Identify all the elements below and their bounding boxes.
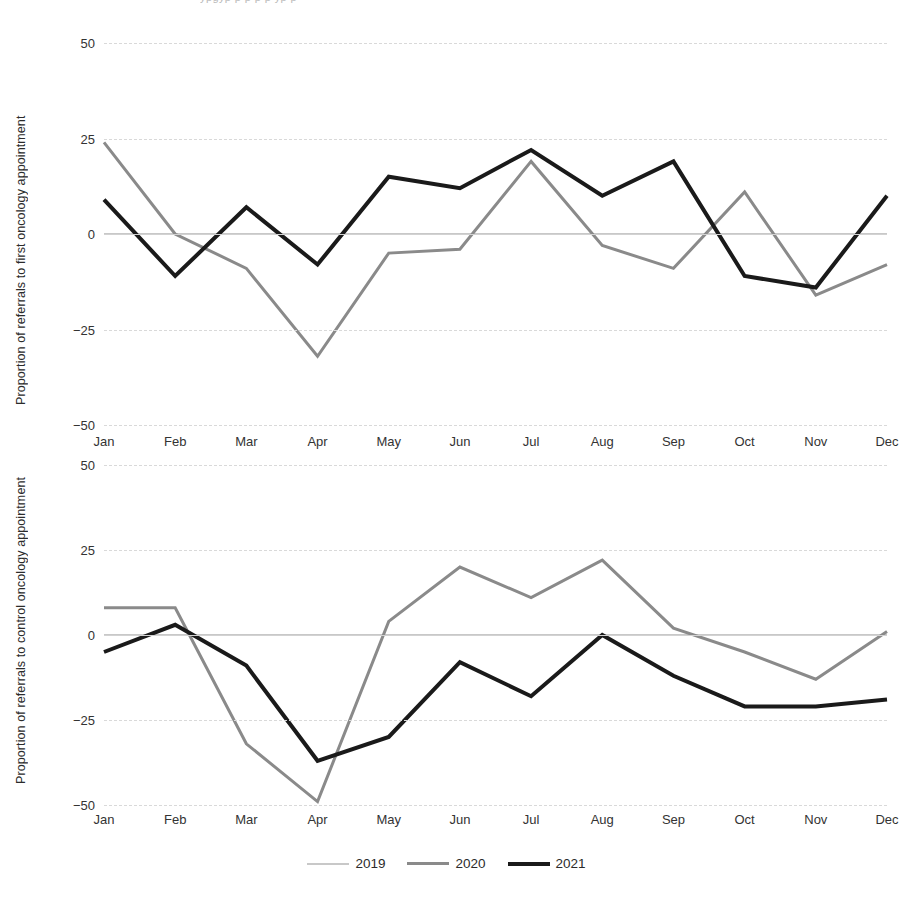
y-tick-label: 25	[81, 543, 95, 558]
x-tick-label-may: May	[376, 812, 401, 827]
gridline-50	[104, 465, 887, 466]
x-tick-label-jun: Jun	[449, 812, 470, 827]
x-tick-label-nov: Nov	[804, 434, 827, 449]
x-tick-label-feb: Feb	[164, 812, 186, 827]
gridline-25	[104, 139, 887, 140]
cropped-text-artifact: ypgyp p p p p yp p	[200, 0, 890, 5]
chart-panel-first-oncology: Proportion of referrals to first oncolog…	[0, 14, 893, 454]
chart-panel-control-oncology: Proportion of referrals to control oncol…	[0, 455, 893, 850]
y-axis-title-bottom: Proportion of referrals to control oncol…	[14, 465, 48, 795]
x-tick-label-sep: Sep	[662, 434, 685, 449]
gridline-25	[104, 550, 887, 551]
x-tick-label-dec: Dec	[875, 812, 898, 827]
x-tick-label-jan: Jan	[94, 434, 115, 449]
x-tick-label-jul: Jul	[523, 812, 540, 827]
gridline--50	[104, 425, 887, 426]
x-tick-label-nov: Nov	[804, 812, 827, 827]
x-axis-ticks-top: JanFebMarAprMayJunJulAugSepOctNovDec	[104, 434, 887, 454]
y-tick-label: 50	[81, 36, 95, 51]
x-tick-label-dec: Dec	[875, 434, 898, 449]
y-tick-label: −25	[73, 713, 95, 728]
x-tick-label-mar: Mar	[235, 812, 257, 827]
x-tick-label-sep: Sep	[662, 812, 685, 827]
legend-swatch-2021	[508, 862, 550, 866]
legend-item-2021[interactable]: 2021	[508, 856, 586, 871]
gridline--25	[104, 720, 887, 721]
x-tick-label-aug: Aug	[591, 434, 614, 449]
legend-item-2020[interactable]: 2020	[407, 856, 485, 871]
x-tick-label-apr: Apr	[307, 434, 327, 449]
x-tick-label-feb: Feb	[164, 434, 186, 449]
y-tick-label: 25	[81, 131, 95, 146]
plot-area-top: 50250−25−50	[104, 43, 887, 425]
x-axis-ticks-bottom: JanFebMarAprMayJunJulAugSepOctNovDec	[104, 812, 887, 832]
legend-label-2020: 2020	[455, 856, 485, 871]
gridline--25	[104, 330, 887, 331]
gridline-50	[104, 43, 887, 44]
legend-label-2021: 2021	[556, 856, 586, 871]
x-tick-label-jan: Jan	[94, 812, 115, 827]
gridline--50	[104, 805, 887, 806]
x-tick-label-oct: Oct	[735, 434, 755, 449]
plot-area-bottom: 50250−25−50	[104, 465, 887, 805]
y-tick-label: −50	[73, 798, 95, 813]
x-tick-label-may: May	[376, 434, 401, 449]
series-line-2020	[104, 142, 887, 356]
y-tick-label: −50	[73, 418, 95, 433]
series-line-2021	[104, 625, 887, 761]
gridline-0	[104, 234, 887, 235]
y-tick-label: 50	[81, 458, 95, 473]
x-tick-label-aug: Aug	[591, 812, 614, 827]
series-line-2021	[104, 150, 887, 288]
legend-swatch-2019	[307, 863, 349, 865]
x-tick-label-mar: Mar	[235, 434, 257, 449]
chart-legend: 201920202021	[0, 856, 893, 871]
legend-item-2019[interactable]: 2019	[307, 856, 385, 871]
gridline-0	[104, 635, 887, 636]
legend-swatch-2020	[407, 862, 449, 865]
y-tick-label: 0	[88, 628, 95, 643]
x-tick-label-apr: Apr	[307, 812, 327, 827]
y-axis-title-top: Proportion of referrals to first oncolog…	[14, 110, 48, 410]
y-tick-label: 0	[88, 227, 95, 242]
legend-label-2019: 2019	[355, 856, 385, 871]
x-tick-label-jul: Jul	[523, 434, 540, 449]
x-tick-label-oct: Oct	[735, 812, 755, 827]
x-tick-label-jun: Jun	[449, 434, 470, 449]
y-tick-label: −25	[73, 322, 95, 337]
